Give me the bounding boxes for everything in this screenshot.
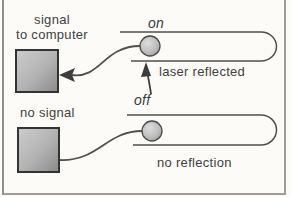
reflector-ball-bottom [142,121,162,141]
computer-box-top [16,50,58,92]
signal-to-computer-label: signal to computer [6,12,98,42]
signal-wire-top [72,46,140,75]
computer-box-bottom [18,128,59,172]
no-reflection-label: no reflection [157,155,232,170]
laser-reflected-label: laser reflected [159,64,245,79]
state-on-label: on [148,15,164,31]
laser-reflection-figure: signal to computer on laser reflected of… [0,0,291,197]
signal-label-line2: to computer [6,27,98,42]
signal-wire-bottom [59,131,142,160]
no-signal-label: no signal [20,105,75,120]
state-off-label: off [134,92,150,108]
reflector-ball-top [140,36,160,56]
signal-label-line1: signal [6,12,98,27]
laser-beam-arrowhead-icon [141,62,151,77]
